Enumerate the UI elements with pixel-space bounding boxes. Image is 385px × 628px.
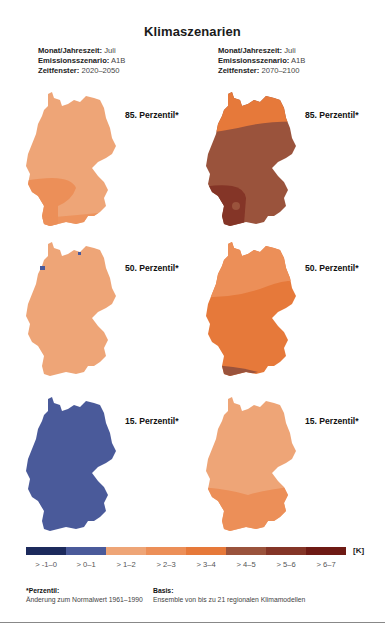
legend-swatch [26, 547, 66, 555]
scenario-info-left: Monat/Jahreszeit: Juli Emissionsszenario… [38, 46, 125, 77]
legend-swatch [106, 547, 146, 555]
page-title: Klimaszenarien [0, 24, 385, 39]
scenario-info-right: Monat/Jahreszeit: Juli Emissionsszenario… [218, 46, 305, 77]
legend-label: > 1–2 [106, 560, 146, 569]
map-2070-2100-p50 [198, 238, 308, 388]
percentile-label: 50. Perzentil* [305, 263, 359, 273]
map-2070-2100-p15 [198, 393, 308, 543]
color-legend [26, 547, 346, 555]
legend-swatch [186, 547, 226, 555]
map-2020-2050-p85 [18, 88, 128, 238]
percentile-label: 50. Perzentil* [125, 263, 179, 273]
legend-label: > 3–4 [186, 560, 226, 569]
footnote-percentile: *Perzentil: Änderung zum Normalwert 1961… [26, 586, 143, 604]
legend-label: > 2–3 [146, 560, 186, 569]
footnote-basis: Basis: Ensemble von bis zu 21 regionalen… [153, 586, 305, 604]
legend-swatch [66, 547, 106, 555]
legend-swatch [226, 547, 266, 555]
legend-labels: > -1–0 > 0–1 > 1–2 > 2–3 > 3–4 > 4–5 > 5… [26, 560, 346, 569]
percentile-label: 15. Perzentil* [305, 416, 359, 426]
legend-swatch [306, 547, 346, 555]
legend-label: > 0–1 [66, 560, 106, 569]
legend-label: > 5–6 [266, 560, 306, 569]
legend-swatch [146, 547, 186, 555]
map-2070-2100-p85 [198, 88, 308, 238]
map-2020-2050-p50 [18, 238, 128, 388]
legend-label: > -1–0 [26, 560, 66, 569]
legend-swatch [266, 547, 306, 555]
legend-label: > 4–5 [226, 560, 266, 569]
bottom-divider [0, 622, 385, 623]
map-2020-2050-p15 [18, 393, 128, 543]
percentile-label: 15. Perzentil* [125, 416, 179, 426]
percentile-label: 85. Perzentil* [305, 110, 359, 120]
legend-label: > 6–7 [306, 560, 346, 569]
legend-unit: [K] [353, 546, 364, 555]
percentile-label: 85. Perzentil* [125, 110, 179, 120]
